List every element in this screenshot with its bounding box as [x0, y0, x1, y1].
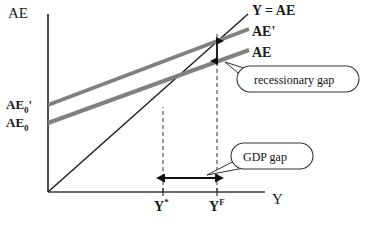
callout-text-recessionary-gap: recessionary gap: [254, 73, 334, 88]
tick-label-y-star: Y*: [154, 198, 169, 214]
intercept-label-ae0: AE0: [6, 116, 29, 133]
y-axis-label: AE: [8, 6, 28, 21]
tick-base-y-full: Y: [209, 199, 219, 214]
keynesian-cross-svg: [0, 0, 366, 227]
tick-sup-y-star: *: [164, 197, 169, 207]
tick-base-y-star: Y: [154, 199, 164, 214]
tick-sup-y-full: F: [219, 197, 225, 207]
intercept-base-ae0-prime: AE: [6, 97, 24, 112]
callout-text-gdp-gap: GDP gap: [243, 150, 287, 165]
tick-label-y-full: YF: [209, 198, 225, 214]
x-axis-label: Y: [272, 192, 283, 207]
intercept-sub-ae0: 0: [24, 123, 29, 133]
line-label-ae: AE: [252, 46, 271, 60]
line-label-y-equals-ae: Y = AE: [252, 4, 295, 18]
line-label-ae-prime: AE': [252, 25, 275, 39]
intercept-base-ae0: AE: [6, 115, 24, 130]
line-ae: [48, 50, 249, 123]
line-ae-prime: [48, 29, 249, 105]
intercept-label-ae0-prime: AE0': [6, 98, 32, 115]
intercept-prime-ae0-prime: ': [29, 97, 33, 112]
diagram-canvas: AE Y Y = AE AE' AE AE0' AE0 Y* YF recess…: [0, 0, 366, 227]
